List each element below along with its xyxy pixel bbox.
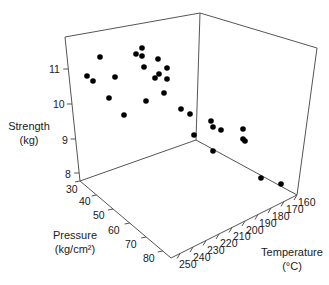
pressure-label: Pressure (50, 228, 100, 242)
data-point (139, 45, 145, 51)
data-point (97, 54, 103, 60)
pressure-tick-60: 60 (108, 224, 120, 236)
temp-tick-250: 250 (179, 258, 197, 270)
strength-tick-9: 9 (62, 134, 68, 146)
data-point (112, 74, 118, 80)
data-point (258, 175, 264, 181)
strength-tick-11: 11 (49, 63, 60, 75)
data-point (156, 71, 162, 77)
strength-tick-10: 10 (53, 98, 65, 110)
data-point (242, 138, 248, 144)
data-point (164, 65, 170, 71)
pressure-tick-30: 30 (66, 183, 78, 195)
data-point (210, 124, 216, 130)
data-point (161, 90, 167, 96)
strength-axis-title: Strength (kg) (4, 119, 54, 147)
pressure-tick-70: 70 (125, 238, 137, 250)
data-point (187, 111, 193, 117)
data-point (218, 127, 224, 133)
pressure-tick-50: 50 (93, 209, 105, 221)
temperature-label: Temperature (256, 245, 328, 259)
strength-label: Strength (4, 119, 54, 133)
data-point (141, 64, 147, 70)
pressure-axis-title: Pressure (kg/cm²) (50, 228, 100, 256)
temperature-unit: (°C) (256, 259, 328, 273)
data-point (143, 98, 149, 104)
pressure-tick-40: 40 (79, 195, 91, 207)
data-point (90, 78, 96, 84)
data-point (133, 51, 139, 57)
data-point (278, 181, 284, 187)
strength-unit: (kg) (4, 133, 54, 147)
strength-tick-8: 8 (65, 168, 71, 180)
data-point (121, 112, 127, 118)
data-point (210, 148, 216, 154)
data-point (139, 53, 145, 59)
temperature-axis-title: Temperature (°C) (256, 245, 328, 273)
data-points (84, 45, 284, 187)
data-point (208, 118, 214, 124)
pressure-unit: (kg/cm²) (50, 242, 100, 256)
data-point (84, 73, 90, 79)
data-point (240, 126, 246, 132)
pressure-tick-80: 80 (143, 252, 155, 264)
data-point (152, 75, 158, 81)
data-point (178, 106, 184, 112)
data-point (106, 95, 112, 101)
data-point (164, 76, 170, 82)
data-point (155, 56, 161, 62)
data-point (191, 132, 197, 138)
